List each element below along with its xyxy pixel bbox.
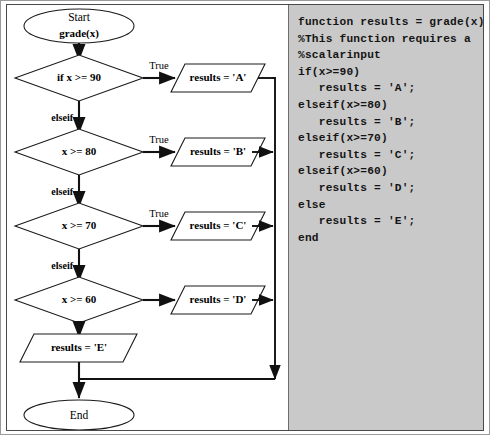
output-node-a: results = 'A' [171, 64, 265, 92]
output-node-b: results = 'B' [171, 138, 265, 166]
source-code-text: function results = grade(x) %This functi… [289, 5, 483, 246]
decision-node-d80: x >= 80 [15, 129, 143, 175]
decision-label-d60: x >= 60 [62, 293, 97, 305]
edge-label-true-d70: True [149, 208, 169, 219]
end-node: End [24, 400, 134, 430]
output-label-e: results = 'E' [51, 341, 107, 353]
edge-label-true-d90: True [149, 60, 169, 71]
output-label-b: results = 'B' [190, 145, 246, 157]
output-label-c: results = 'C' [190, 219, 247, 231]
decision-node-d70: x >= 70 [15, 203, 143, 249]
decision-label-d70: x >= 70 [62, 219, 97, 231]
branch-label-elseif-d60: elseif [51, 260, 73, 271]
output-label-d: results = 'D' [190, 293, 247, 305]
decision-label-d80: x >= 80 [62, 145, 97, 157]
output-label-a: results = 'A' [190, 71, 247, 83]
start-label-line1: Start [68, 11, 91, 23]
edge-label-true-d80: True [149, 134, 169, 145]
decision-node-d90: if x >= 90 [15, 55, 143, 101]
output-node-e: results = 'E' [20, 334, 137, 362]
end-label: End [70, 409, 89, 421]
code-panel: function results = grade(x) %This functi… [288, 5, 483, 430]
branch-label-elseif-d70: elseif [51, 186, 73, 197]
decision-label-d90: if x >= 90 [57, 71, 102, 83]
flowchart-panel: Start grade(x) if x >= 90 True results =… [7, 5, 287, 430]
output-node-d: results = 'D' [171, 286, 265, 314]
decision-node-d60: x >= 60 [15, 277, 143, 323]
flowchart-svg: Start grade(x) if x >= 90 True results =… [7, 5, 287, 430]
start-node: Start grade(x) [24, 9, 134, 43]
branch-label-elseif-d80: elseif [51, 112, 73, 123]
output-node-c: results = 'C' [171, 212, 265, 240]
figure-page: Start grade(x) if x >= 90 True results =… [0, 0, 490, 435]
start-label-line2: grade(x) [59, 27, 99, 40]
